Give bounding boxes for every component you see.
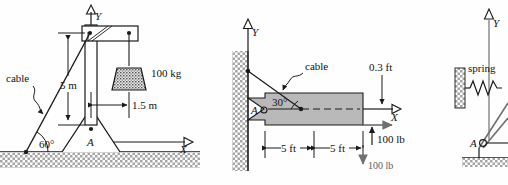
axis-x-middle-label: X <box>390 111 399 123</box>
support-label-A-left: A <box>86 136 94 148</box>
wall-hatch-right <box>455 68 465 108</box>
force-down-middle: 100 lb <box>363 145 393 171</box>
dim-1p5m-label: 1.5 m <box>132 99 158 111</box>
force-up-label: 100 lb <box>377 133 405 145</box>
angle-60-left: 60° <box>37 132 54 152</box>
mass-label-100kg: 100 kg <box>151 67 182 79</box>
ground-right <box>462 158 508 167</box>
dim-span-middle: 5 ft 5 ft <box>265 131 363 158</box>
diagram-svg: Y X A <box>0 0 508 185</box>
panel-right: Y spring A <box>455 9 508 167</box>
spring-coil <box>470 81 502 95</box>
wall-middle <box>232 51 248 171</box>
cable-anchor-middle <box>246 69 250 73</box>
angle-60-label: 60° <box>39 138 54 150</box>
cable-leader-middle: cable <box>283 60 328 90</box>
axis-y-middle: Y <box>244 19 261 51</box>
axis-x-middle: X <box>363 105 401 124</box>
pin-A-left <box>89 127 93 131</box>
dim-0p3ft-middle: 0.3 ft <box>369 61 392 104</box>
support-label-A-middle: A <box>250 104 258 116</box>
wall-right <box>455 68 465 108</box>
axis-y-left-label: Y <box>95 10 103 22</box>
figure-canvas: Y X A <box>0 0 508 185</box>
angle-30-label: 30° <box>272 96 287 108</box>
cable-anchor-left <box>24 150 28 154</box>
force-down-label: 100 lb <box>368 160 393 171</box>
force-up-middle: 100 lb <box>372 127 405 145</box>
dim-5ft-left-label: 5 ft <box>281 142 296 154</box>
panel-middle: Y A 30° cable <box>232 19 405 171</box>
ground-left <box>0 152 200 168</box>
axis-y-right: Y <box>485 9 502 140</box>
dim-0p3ft-label: 0.3 ft <box>369 61 392 73</box>
axis-x-left-label: X <box>179 143 188 155</box>
panel-left: Y X A <box>0 5 200 168</box>
mass-block <box>112 68 146 90</box>
axis-y-right-label: Y <box>493 17 501 29</box>
dim-5ft-right-label: 5 ft <box>330 142 345 154</box>
wall-hatch <box>232 51 248 171</box>
cable-label-left: cable <box>6 72 29 84</box>
spring-label: spring <box>468 62 496 74</box>
cable-leader-left: cable <box>6 72 43 114</box>
hanging-mass-left: 100 kg <box>112 34 182 90</box>
axis-y-middle-label: Y <box>252 26 260 38</box>
linkage-right <box>479 103 508 158</box>
dim-5m-label: 5 m <box>60 79 77 91</box>
support-label-A-right: A <box>469 137 477 149</box>
dim-5m-left: 5 m <box>58 33 85 125</box>
spring-right: spring <box>465 62 502 95</box>
cable-label-middle: cable <box>305 60 328 72</box>
dim-1p5m-left: 1.5 m <box>91 92 158 118</box>
